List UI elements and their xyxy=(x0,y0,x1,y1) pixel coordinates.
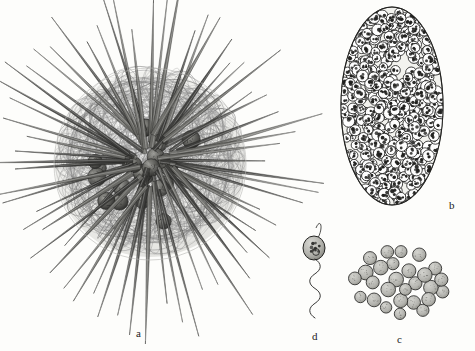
panel-a-radiolarian xyxy=(0,0,324,344)
figure-plate: a b c d xyxy=(0,0,475,351)
illustration-canvas xyxy=(0,0,475,351)
panel-label-a: a xyxy=(136,328,141,339)
panel-label-b: b xyxy=(449,200,455,211)
panel-label-c: c xyxy=(397,334,402,345)
panel-b-sporocyst xyxy=(337,7,447,208)
panel-d-swarmer xyxy=(303,223,325,318)
panel-label-d: d xyxy=(312,331,318,342)
panel-c-spore-cluster xyxy=(349,246,449,320)
